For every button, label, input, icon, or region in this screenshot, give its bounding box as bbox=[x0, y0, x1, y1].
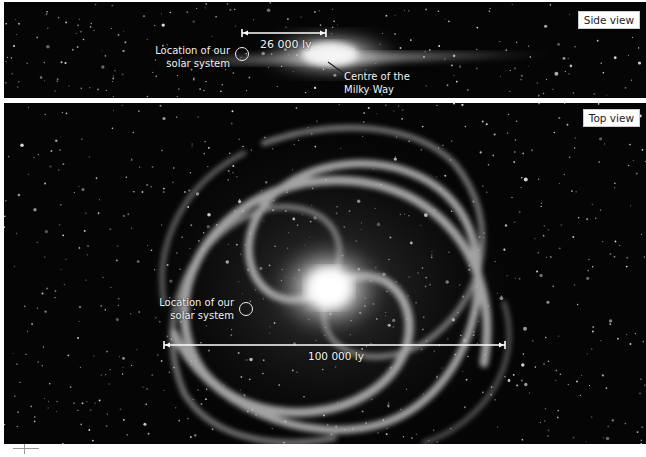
top-view-distance-label: 100 000 ly bbox=[308, 350, 364, 363]
top-view-badge: Top view bbox=[583, 109, 640, 127]
solar-label-line2: solar system bbox=[150, 57, 230, 70]
top-view-distance-bar bbox=[162, 340, 508, 350]
solar-label-line1: Location of our bbox=[150, 44, 230, 57]
side-view-distance-bar bbox=[240, 28, 330, 38]
side-view-centre-label: Centre of the Milky Way bbox=[344, 70, 410, 96]
top-view-galaxy-image bbox=[4, 103, 646, 444]
crop-mark-vertical bbox=[24, 444, 25, 454]
side-view-badge: Side view bbox=[578, 11, 640, 29]
centre-label-line1: Centre of the bbox=[344, 70, 410, 83]
top-view-panel: Location of our solar system 100 000 ly … bbox=[4, 103, 646, 444]
side-view-solar-label: Location of our solar system bbox=[150, 44, 230, 70]
crop-mark-horizontal bbox=[13, 448, 39, 449]
side-view-panel: 26 000 ly Location of our solar system C… bbox=[4, 2, 646, 98]
solar-label-line2: solar system bbox=[152, 309, 234, 322]
side-view-galaxy-image bbox=[4, 2, 646, 98]
top-view-solar-label: Location of our solar system bbox=[152, 296, 234, 322]
side-view-distance-label: 26 000 ly bbox=[260, 38, 312, 51]
solar-label-line1: Location of our bbox=[152, 296, 234, 309]
centre-label-line2: Milky Way bbox=[344, 83, 410, 96]
solar-system-marker-top bbox=[239, 302, 253, 316]
solar-system-marker-side bbox=[235, 47, 249, 61]
